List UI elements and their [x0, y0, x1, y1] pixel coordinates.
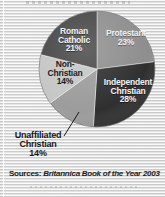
slice-label-roman-catholic-value: 21%: [50, 44, 98, 53]
source-note-title: Britannica Book of the Year 2003: [43, 169, 160, 178]
source-note-label: Sources:: [9, 169, 41, 178]
source-note: Sources: Britannica Book of the Year 200…: [9, 169, 161, 178]
slice-label-non-christian-value: 14%: [42, 77, 88, 86]
slice-label-independent-christian-value: 28%: [98, 95, 158, 104]
slice-label-unaffiliated-christian: Unaffiliated Christian 14%: [2, 131, 74, 159]
slice-label-protestant: Protestant 23%: [98, 29, 154, 46]
slice-label-independent-christian: Independent Christian 28%: [98, 78, 158, 104]
slice-label-non-christian: Non- Christian 14%: [42, 60, 88, 86]
slice-label-roman-catholic: Roman Catholic 21%: [50, 27, 98, 53]
slice-label-protestant-value: 23%: [98, 38, 154, 47]
pie-chart-figure: Protestant 23% Independent Christian 28%…: [0, 0, 165, 197]
slice-label-unaffiliated-christian-value: 14%: [2, 149, 74, 158]
